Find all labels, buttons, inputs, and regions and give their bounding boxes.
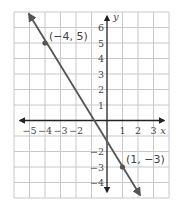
y-tick: −2 — [90, 146, 104, 157]
x-tick: −2 — [69, 125, 83, 136]
y-tick: 3 — [98, 69, 104, 80]
y-tick: 4 — [98, 53, 104, 64]
coordinate-plane: −5 −4 −3 −2 1 2 3 x 6 5 4 3 2 1 −2 −3 −4… — [0, 0, 179, 214]
point-a-label: (−4, 5) — [49, 30, 88, 43]
point-b — [120, 164, 125, 169]
x-tick: −3 — [53, 125, 67, 136]
x-tick: 3 — [150, 125, 156, 136]
x-axis-label: x — [160, 125, 166, 136]
y-tick: 6 — [98, 22, 104, 33]
y-tick: 5 — [98, 38, 104, 49]
y-tick: 2 — [98, 84, 104, 95]
x-tick: −4 — [38, 125, 52, 136]
x-tick-labels: −5 −4 −3 −2 1 2 3 — [22, 125, 156, 136]
point-a — [42, 40, 47, 45]
point-b-label: (1, −3) — [126, 153, 165, 166]
x-tick: 1 — [119, 125, 125, 136]
x-tick: 2 — [135, 125, 141, 136]
y-tick: 1 — [98, 100, 104, 111]
y-axis-label: y — [112, 11, 119, 22]
y-tick: −4 — [90, 177, 104, 188]
y-tick: −3 — [90, 162, 104, 173]
x-tick: −5 — [22, 125, 36, 136]
